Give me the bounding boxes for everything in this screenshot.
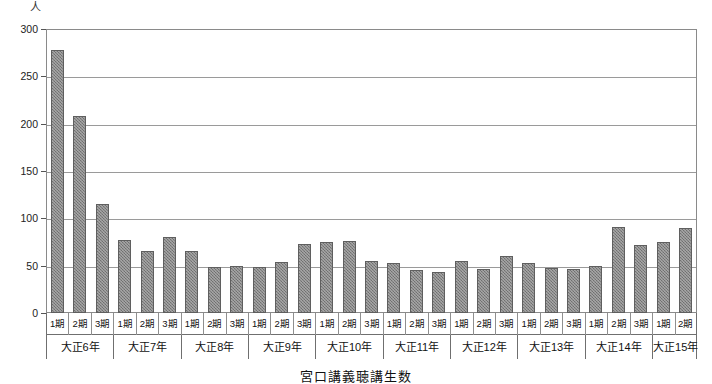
x-axis-period-label: 1期 <box>248 313 270 335</box>
x-axis-period-label: 2期 <box>675 313 697 335</box>
x-axis-year-row: 大正6年大正7年大正8年大正9年大正10年大正11年大正12年大正13年大正14… <box>46 335 697 359</box>
x-axis: 1期2期3期1期2期3期1期2期3期1期2期3期1期2期3期1期2期3期1期2期… <box>46 313 697 359</box>
x-axis-period-label: 1期 <box>652 313 674 335</box>
y-axis-tick-mark <box>41 76 46 77</box>
y-axis-tick-mark <box>41 313 46 314</box>
x-axis-year-label: 大正10年 <box>315 335 382 359</box>
y-axis-tick-label: 250 <box>4 71 38 81</box>
x-axis-period-row: 1期2期3期1期2期3期1期2期3期1期2期3期1期2期3期1期2期3期1期2期… <box>46 313 697 335</box>
bar <box>612 227 625 313</box>
x-axis-period-label: 3期 <box>360 313 382 335</box>
x-axis-year-label: 大正15年 <box>652 335 697 359</box>
x-axis-period-label: 1期 <box>517 313 539 335</box>
x-axis-period-label: 2期 <box>270 313 292 335</box>
x-axis-period-label: 2期 <box>136 313 158 335</box>
bar <box>634 245 647 313</box>
bar <box>567 269 580 313</box>
bar <box>410 270 423 313</box>
bar <box>545 268 558 313</box>
x-axis-period-label: 3期 <box>226 313 248 335</box>
x-axis-period-label: 1期 <box>181 313 203 335</box>
figure-caption: 宮口講義聴講生数 <box>0 369 712 384</box>
x-axis-period-label: 2期 <box>68 313 90 335</box>
bar <box>141 251 154 313</box>
x-axis-period-label: 2期 <box>607 313 629 335</box>
x-axis-period-label: 1期 <box>46 313 68 335</box>
y-axis-tick-label: 150 <box>4 166 38 176</box>
bar <box>679 228 692 313</box>
x-axis-year-label: 大正12年 <box>450 335 517 359</box>
y-axis-tick-label: 300 <box>4 24 38 34</box>
x-axis-period-label: 2期 <box>338 313 360 335</box>
x-axis-year-label: 大正9年 <box>248 335 315 359</box>
x-axis-period-label: 3期 <box>630 313 652 335</box>
bar <box>657 242 670 313</box>
y-axis-tick-mark <box>41 29 46 30</box>
x-axis-year-label: 大正8年 <box>181 335 248 359</box>
bar <box>589 266 602 313</box>
x-axis-period-label: 2期 <box>405 313 427 335</box>
x-axis-period-label: 1期 <box>585 313 607 335</box>
bar <box>500 256 513 313</box>
x-axis-period-label: 3期 <box>428 313 450 335</box>
bar <box>253 267 266 313</box>
x-axis-year-label: 大正14年 <box>585 335 652 359</box>
bar <box>96 204 109 313</box>
y-axis-tick-mark <box>41 171 46 172</box>
x-axis-period-label: 2期 <box>473 313 495 335</box>
bar <box>208 267 221 313</box>
x-axis-period-label: 1期 <box>450 313 472 335</box>
chart-figure: 人 1期2期3期1期2期3期1期2期3期1期2期3期1期2期3期1期2期3期1期… <box>0 0 712 384</box>
bar-series <box>46 29 697 313</box>
bar <box>275 262 288 313</box>
bar <box>432 272 445 313</box>
y-axis-tick-mark <box>41 218 46 219</box>
bar <box>387 263 400 313</box>
x-axis-period-label: 2期 <box>540 313 562 335</box>
bar <box>522 263 535 313</box>
x-axis-period-label: 3期 <box>293 313 315 335</box>
bar <box>73 116 86 313</box>
x-axis-period-label: 3期 <box>495 313 517 335</box>
bar <box>163 237 176 313</box>
bar <box>185 251 198 313</box>
y-axis-tick-label: 200 <box>4 119 38 129</box>
bar <box>118 240 131 313</box>
bar <box>298 244 311 313</box>
x-axis-year-label: 大正13年 <box>517 335 584 359</box>
y-axis-unit-label: 人 <box>30 2 41 13</box>
bar <box>477 269 490 313</box>
x-axis-year-label: 大正6年 <box>46 335 113 359</box>
bar <box>343 241 356 313</box>
x-axis-period-label: 1期 <box>383 313 405 335</box>
x-axis-period-label: 3期 <box>91 313 113 335</box>
y-axis-tick-label: 0 <box>4 308 38 318</box>
y-axis-tick-label: 50 <box>4 261 38 271</box>
y-axis-tick-label: 100 <box>4 213 38 223</box>
x-axis-year-label: 大正7年 <box>113 335 180 359</box>
x-axis-period-label: 3期 <box>158 313 180 335</box>
x-axis-period-label: 2期 <box>203 313 225 335</box>
x-axis-period-label: 1期 <box>315 313 337 335</box>
x-axis-period-label: 3期 <box>562 313 584 335</box>
y-axis-tick-mark <box>41 266 46 267</box>
bar <box>455 261 468 313</box>
bar <box>230 266 243 313</box>
x-axis-year-label: 大正11年 <box>383 335 450 359</box>
x-axis-period-label: 1期 <box>113 313 135 335</box>
bar <box>320 242 333 313</box>
bar <box>365 261 378 313</box>
y-axis-tick-mark <box>41 124 46 125</box>
bar <box>51 50 64 313</box>
